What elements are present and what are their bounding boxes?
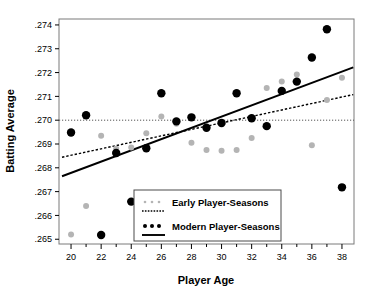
data-point — [142, 144, 150, 152]
legend-marker-dot — [150, 224, 154, 228]
legend-marker-dot — [151, 201, 154, 204]
data-point — [83, 203, 89, 209]
data-point — [324, 97, 330, 103]
x-axis-title: Player Age — [178, 274, 234, 286]
y-axis-ticks: .265.266.267.268.269.270.271.272.273.274 — [34, 20, 59, 244]
x-axis-ticks: 20222426283032343638 — [66, 244, 347, 262]
plot-canvas: .265.266.267.268.269.270.271.272.273.274… — [0, 0, 371, 295]
data-point — [249, 135, 255, 141]
x-tick-label: 38 — [337, 252, 347, 262]
y-tick-label: .272 — [34, 68, 52, 78]
y-tick-label: .265 — [34, 234, 52, 244]
data-point — [219, 148, 225, 154]
data-point — [98, 133, 104, 139]
data-point — [294, 71, 300, 77]
data-point — [157, 89, 165, 97]
legend-marker-dot — [157, 224, 161, 228]
x-tick-label: 36 — [307, 252, 317, 262]
legend-label: Early Player-Seasons — [172, 197, 269, 208]
data-point — [68, 231, 74, 237]
data-point — [264, 85, 270, 91]
data-point — [158, 114, 164, 120]
data-point — [82, 111, 90, 119]
data-point — [234, 147, 240, 153]
data-point — [188, 140, 194, 146]
data-point — [232, 89, 240, 97]
x-tick-label: 22 — [96, 252, 106, 262]
data-point — [112, 149, 120, 157]
data-point — [97, 231, 105, 239]
data-point — [278, 87, 286, 95]
y-tick-label: .271 — [34, 92, 52, 102]
scatter-plot-figure: .265.266.267.268.269.270.271.272.273.274… — [0, 0, 371, 295]
x-tick-label: 24 — [126, 252, 136, 262]
x-tick-label: 32 — [247, 252, 257, 262]
data-point — [247, 114, 255, 122]
y-axis-title: Batting Average — [4, 89, 16, 173]
data-point — [293, 77, 301, 85]
legend-marker-dot — [158, 201, 161, 204]
data-point — [204, 147, 210, 153]
y-tick-label: .273 — [34, 44, 52, 54]
data-point — [67, 128, 75, 136]
y-tick-label: .274 — [34, 20, 52, 30]
data-point — [128, 145, 134, 151]
x-tick-label: 20 — [66, 252, 76, 262]
data-point — [338, 183, 346, 191]
x-tick-label: 34 — [277, 252, 287, 262]
legend-marker-dot — [144, 201, 147, 204]
x-tick-label: 26 — [156, 252, 166, 262]
data-point — [309, 142, 315, 148]
data-point — [217, 119, 225, 127]
x-tick-label: 30 — [217, 252, 227, 262]
data-point — [202, 124, 210, 132]
legend-marker-dot — [143, 224, 147, 228]
legend-label: Modern Player-Seasons — [172, 221, 280, 232]
x-tick-label: 28 — [186, 252, 196, 262]
y-tick-label: .268 — [34, 163, 52, 173]
chart-legend: Early Player-SeasonsModern Player-Season… — [134, 190, 281, 241]
data-point — [339, 75, 345, 81]
data-point — [172, 117, 180, 125]
y-tick-label: .269 — [34, 139, 52, 149]
y-tick-label: .266 — [34, 211, 52, 221]
data-point — [263, 122, 271, 130]
data-point — [143, 130, 149, 136]
data-point — [323, 25, 331, 33]
data-point — [187, 113, 195, 121]
data-point — [308, 53, 316, 61]
data-point — [279, 79, 285, 85]
y-tick-label: .270 — [34, 115, 52, 125]
y-tick-label: .267 — [34, 187, 52, 197]
